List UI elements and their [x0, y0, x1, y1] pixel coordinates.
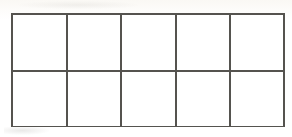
cell-r1c3[interactable]: [122, 15, 175, 70]
cell-r2c5[interactable]: [231, 72, 283, 126]
ten-frame-grid: [11, 13, 285, 127]
cell-r1c2[interactable]: [68, 15, 120, 70]
scan-artifact-top: [18, 1, 138, 9]
cell-r2c1[interactable]: [13, 72, 66, 126]
cell-r2c4[interactable]: [177, 72, 229, 126]
cell-r1c1[interactable]: [13, 15, 66, 70]
cell-r1c5[interactable]: [231, 15, 283, 70]
cell-r1c4[interactable]: [177, 15, 229, 70]
cell-r2c2[interactable]: [68, 72, 120, 126]
cell-r2c3[interactable]: [122, 72, 175, 126]
scan-artifact-bottom-left: [4, 126, 50, 135]
ten-frame-figure: [0, 0, 292, 137]
